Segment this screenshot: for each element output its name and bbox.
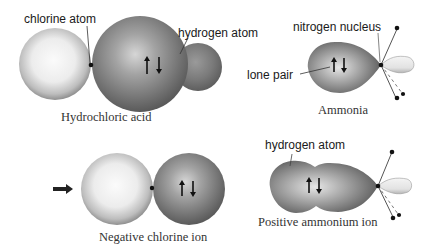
diagram-canvas: chlorine atom hydrogen atom Hydrochloric… [0, 0, 431, 245]
chlorine-light-sphere [19, 28, 91, 100]
ammonia-caption: Ammonia [318, 103, 368, 117]
hydrochloric-acid-caption: Hydrochloric acid [61, 110, 152, 124]
chlorine-ion-dark-sphere [153, 153, 225, 225]
negative-chlorine-ion-caption: Negative chlorine ion [99, 230, 208, 244]
hydrogen-dot [390, 150, 395, 155]
hydrogen-atom-label: hydrogen atom [178, 26, 258, 40]
ammonium-small-lobe [378, 178, 412, 194]
panel-positive-ammonium-ion: hydrogen atom Positive ammonium ion [258, 138, 412, 229]
bond-dot [150, 186, 154, 190]
hydrogen-dot [391, 216, 396, 221]
bond-dot [89, 63, 94, 68]
nitrogen-nucleus-dot [376, 184, 381, 189]
ammonia-small-lobe [381, 56, 414, 73]
hydrogen-atom-label: hydrogen atom [265, 138, 345, 152]
panel-ammonia: nitrogen nucleus lone pair Ammonia [247, 20, 414, 117]
positive-ammonium-ion-caption: Positive ammonium ion [258, 215, 378, 229]
hydrogen-dot [397, 213, 401, 217]
chlorine-ion-light-sphere [81, 153, 153, 225]
chlorine-atom-label: chlorine atom [24, 12, 96, 26]
lone-pair-label: lone pair [247, 68, 293, 82]
panel-hydrochloric-acid: chlorine atom hydrogen atom Hydrochloric… [19, 12, 258, 124]
hydrogen-dot [395, 26, 400, 31]
nitrogen-nucleus-dot [379, 63, 384, 68]
ammonium-lobe [270, 161, 378, 213]
hydrogen-dot [395, 96, 400, 101]
nitrogen-nucleus-label: nitrogen nucleus [293, 20, 381, 34]
panel-negative-chlorine-ion: Negative chlorine ion [53, 153, 225, 244]
right-arrow-icon [53, 184, 73, 194]
nitrogen-nucleus-leader [378, 33, 380, 62]
hydrogen-dot [401, 92, 405, 96]
